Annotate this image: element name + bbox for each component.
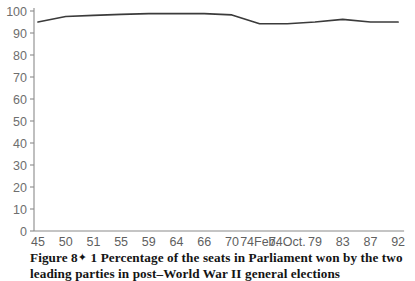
x-tick-label: 50: [59, 235, 73, 249]
x-tick-label: 83: [336, 235, 350, 249]
y-tick-label: 40: [13, 137, 27, 151]
y-tick-label: 70: [13, 71, 27, 85]
caption-figure-number: Figure 8: [30, 250, 78, 265]
y-tick-label: 20: [13, 181, 27, 195]
x-tick-label: 64: [170, 235, 184, 249]
caption-line-1-text: 1 Percentage of the seats in Parliament …: [91, 250, 403, 265]
x-tick-label: 92: [391, 235, 405, 249]
x-tick-label: 79: [308, 235, 322, 249]
x-tick-label: 74Oct.: [269, 235, 306, 249]
x-tick-label: 70: [225, 235, 239, 249]
y-tick-label: 50: [13, 115, 27, 129]
y-tick-label: 0: [20, 225, 27, 239]
y-tick-label: 10: [13, 203, 27, 217]
x-tick-label: 55: [114, 235, 128, 249]
caption-ornament-icon: ✦: [78, 251, 87, 264]
y-axis: 0102030405060708090100: [6, 5, 34, 239]
caption-line-1: Figure 8✦ 1 Percentage of the seats in P…: [30, 250, 410, 266]
x-tick-label: 87: [363, 235, 377, 249]
y-tick-label: 100: [6, 5, 27, 19]
x-tick-label: 66: [197, 235, 211, 249]
chart-plot-area: 0102030405060708090100 45505155596466707…: [0, 0, 415, 248]
y-tick-label: 60: [13, 93, 27, 107]
data-line: [38, 14, 398, 24]
caption-line-2: leading parties in post–World War II gen…: [30, 266, 410, 281]
data-series-group: [38, 14, 398, 24]
x-tick-label: 51: [86, 235, 100, 249]
x-tick-label: 59: [142, 235, 156, 249]
x-axis: 455051555964667074Feb.74Oct.79838792: [31, 231, 405, 248]
y-tick-label: 90: [13, 27, 27, 41]
y-tick-label: 30: [13, 159, 27, 173]
figure-caption: Figure 8✦ 1 Percentage of the seats in P…: [30, 250, 410, 281]
y-tick-label: 80: [13, 49, 27, 63]
line-chart-svg: 0102030405060708090100 45505155596466707…: [0, 0, 415, 248]
x-tick-label: 45: [31, 235, 45, 249]
